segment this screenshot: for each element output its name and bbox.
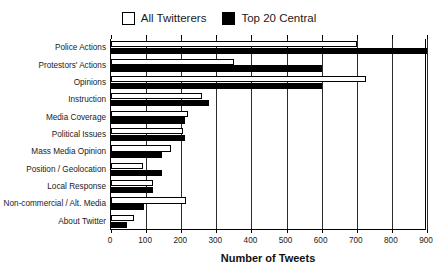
bar-group <box>111 195 425 212</box>
bar-top-20-central <box>111 170 162 176</box>
bar-top-20-central <box>111 100 209 106</box>
bar-top-20-central <box>111 117 185 123</box>
legend-entry-top-20-central: Top 20 Central <box>222 12 316 25</box>
y-axis-category-label: Political Issues <box>0 130 106 139</box>
bar-group <box>111 39 425 56</box>
x-axis-tick-label: 100 <box>138 236 152 246</box>
bar-group <box>111 91 425 108</box>
x-tick-top <box>427 35 428 39</box>
x-axis-tick-label: 0 <box>108 236 113 246</box>
bar-top-20-central <box>111 152 162 158</box>
bar-top-20-central <box>111 135 185 141</box>
bar-all-twitterers <box>111 93 202 99</box>
x-axis-tick-label: 200 <box>173 236 187 246</box>
bar-top-20-central <box>111 83 322 89</box>
bars-layer <box>111 39 425 229</box>
y-axis-category-label: Local Response <box>0 182 106 191</box>
bar-group <box>111 143 425 160</box>
x-axis-tick-label: 500 <box>279 236 293 246</box>
bar-top-20-central <box>111 65 322 71</box>
bar-top-20-central <box>111 187 153 193</box>
x-axis-tick-label: 400 <box>244 236 258 246</box>
bar-all-twitterers <box>111 111 188 117</box>
y-axis-category-label: About Twitter <box>0 217 106 226</box>
y-axis-category-label: Mass Media Opinion <box>0 147 106 156</box>
legend-swatch-all-twitterers <box>122 12 135 25</box>
bar-all-twitterers <box>111 180 153 186</box>
gridline <box>427 39 428 229</box>
x-axis-tick-label: 300 <box>208 236 222 246</box>
bar-group <box>111 126 425 143</box>
bar-group <box>111 178 425 195</box>
legend-label-top-20-central: Top 20 Central <box>241 12 316 25</box>
y-axis-category-label: Media Coverage <box>0 113 106 122</box>
x-axis-tick-label: 700 <box>349 236 363 246</box>
legend-swatch-top-20-central <box>222 12 235 25</box>
plot-area <box>110 39 426 230</box>
y-axis-category-label: Instruction <box>0 95 106 104</box>
y-axis-labels: Police ActionsProtestors' ActionsOpinion… <box>0 39 106 230</box>
bar-group <box>111 74 425 91</box>
bar-top-20-central <box>111 48 427 54</box>
bar-top-20-central <box>111 204 144 210</box>
x-axis-tick-labels: 0100200300400500600700800900 <box>110 236 426 248</box>
bar-group <box>111 161 425 178</box>
bar-group <box>111 213 425 230</box>
x-tick <box>427 229 428 233</box>
x-axis-title: Number of Tweets <box>110 252 426 264</box>
bar-all-twitterers <box>111 128 183 134</box>
plot-wrapper <box>110 39 426 230</box>
bar-all-twitterers <box>111 145 171 151</box>
bar-all-twitterers <box>111 41 357 47</box>
x-axis-tick-label: 900 <box>419 236 433 246</box>
bar-group <box>111 108 425 125</box>
bar-all-twitterers <box>111 76 366 82</box>
legend-entry-all-twitterers: All Twitterers <box>122 12 207 25</box>
bar-all-twitterers <box>111 59 234 65</box>
tweet-category-bar-chart: All Twitterers Top 20 Central Police Act… <box>0 0 438 280</box>
y-axis-category-label: Non-commercial / Alt. Media <box>0 199 106 208</box>
x-axis-tick-label: 800 <box>384 236 398 246</box>
y-axis-category-label: Position / Geolocation <box>0 165 106 174</box>
x-axis-tick-label: 600 <box>314 236 328 246</box>
bar-all-twitterers <box>111 163 143 169</box>
y-axis-category-label: Police Actions <box>0 43 106 52</box>
bar-group <box>111 56 425 73</box>
bar-all-twitterers <box>111 197 186 203</box>
y-axis-category-label: Protestors' Actions <box>0 61 106 70</box>
y-axis-category-label: Opinions <box>0 78 106 87</box>
chart-legend: All Twitterers Top 20 Central <box>0 12 438 25</box>
bar-top-20-central <box>111 222 127 228</box>
bar-all-twitterers <box>111 215 134 221</box>
legend-label-all-twitterers: All Twitterers <box>141 12 207 25</box>
